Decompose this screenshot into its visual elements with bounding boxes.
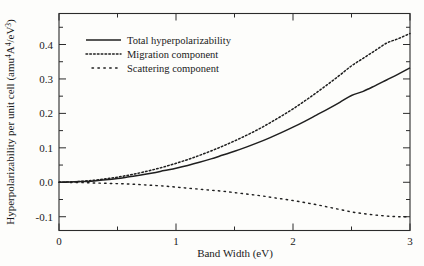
y-axis-title-main: Hyperpolarizability per unit cell (amu <box>4 58 17 225</box>
y-tick-label: 0.3 <box>39 73 53 85</box>
legend-label-migration: Migration component <box>127 49 218 60</box>
y-axis-title-div: /eV <box>4 27 16 43</box>
x-tick-label: 1 <box>173 235 179 247</box>
y-tick-label: 0.0 <box>39 176 53 188</box>
x-tick-label: 0 <box>56 235 62 247</box>
legend-label-total: Total hyperpolarizability <box>127 35 232 46</box>
x-tick-label: 3 <box>407 235 413 247</box>
y-axis-major-ticks <box>59 45 410 217</box>
y-tick-label: 0.1 <box>39 142 53 154</box>
y-tick-label: 0.2 <box>39 107 53 119</box>
chart-figure: -0.10.00.10.20.30.4 0123 Total hyperpola… <box>0 0 424 266</box>
x-tick-label: 2 <box>290 235 296 247</box>
y-tick-label: 0.4 <box>39 39 53 51</box>
series-scattering-component <box>59 182 410 216</box>
y-axis-title-mid: A <box>4 46 16 54</box>
chart-legend: Total hyperpolarizability Migration comp… <box>86 35 232 74</box>
y-axis-title-close: ) <box>4 19 17 23</box>
line-chart: -0.10.00.10.20.30.4 0123 Total hyperpola… <box>0 0 424 266</box>
y-axis-tick-labels: -0.10.00.10.20.30.4 <box>36 39 54 223</box>
x-axis-minor-ticks <box>118 14 352 231</box>
y-axis-title: Hyperpolarizability per unit cell (amu4A… <box>4 19 18 225</box>
series-total-hyperpolarizability <box>59 68 410 182</box>
y-tick-label: -0.1 <box>36 211 53 223</box>
x-axis-title: Band Width (eV) <box>197 247 273 260</box>
y-axis-minor-ticks <box>59 27 410 199</box>
x-axis-major-ticks <box>59 14 410 231</box>
legend-label-scattering: Scattering component <box>127 63 219 74</box>
plot-frame <box>59 14 410 231</box>
x-axis-tick-labels: 0123 <box>56 235 413 247</box>
series-migration-component <box>59 33 410 182</box>
